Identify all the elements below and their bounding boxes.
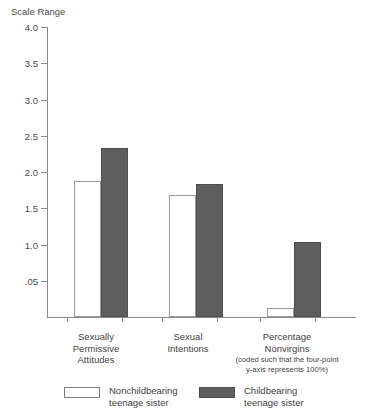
group-label-line3: Attitudes <box>78 354 115 365</box>
y-tick-mark <box>41 245 47 246</box>
x-axis-group-label-nonvirgins: Percentage Nonvirgins (coded such that t… <box>213 331 361 375</box>
legend-swatch-filled-rectangle-icon <box>199 387 235 398</box>
y-tick-label: 1.0 <box>4 239 38 250</box>
group-label-note-line1: (coded such that the four-point <box>213 355 361 364</box>
x-tick-mark <box>67 317 68 322</box>
y-tick-label: .05 <box>4 275 38 286</box>
legend-label-line1: Nonchildbearing <box>109 385 178 396</box>
bar-childbearing-attitudes <box>101 148 128 317</box>
x-axis-line <box>47 317 356 318</box>
legend-label-line1: Childbearing <box>244 385 297 396</box>
y-tick-mark <box>41 172 47 173</box>
y-axis-title: Scale Range <box>11 6 65 17</box>
x-tick-mark <box>162 317 163 322</box>
x-tick-mark <box>217 317 218 322</box>
group-label-line2: Permissive <box>73 343 119 354</box>
bar-nonchildbearing-intentions <box>169 195 196 317</box>
y-tick-mark <box>41 100 47 101</box>
legend-label-line2: teenage sister <box>109 397 169 408</box>
legend-swatch-open-rectangle-icon <box>64 387 100 398</box>
y-tick-mark <box>41 136 47 137</box>
y-tick-mark <box>41 208 47 209</box>
y-tick-mark <box>41 27 47 28</box>
group-label-line1: Percentage <box>263 331 312 342</box>
bar-nonchildbearing-attitudes <box>74 181 101 317</box>
y-tick-label: 3.5 <box>4 58 38 69</box>
y-axis-line <box>47 27 48 318</box>
bar-nonchildbearing-nonvirgins <box>267 308 294 317</box>
bar-childbearing-nonvirgins <box>294 242 321 317</box>
x-axis-group-label-attitudes: Sexually Permissive Attitudes <box>48 331 144 366</box>
plot-area: 4.0 3.5 3.0 2.5 2.0 1.5 1.0 .05 <box>47 27 356 318</box>
group-label-line2: Nonvirgins <box>265 343 310 354</box>
y-tick-mark <box>41 63 47 64</box>
y-tick-mark <box>41 281 47 282</box>
x-tick-mark <box>260 317 261 322</box>
y-tick-label: 2.5 <box>4 130 38 141</box>
group-label-line1: Sexually <box>78 331 114 342</box>
x-tick-mark <box>315 317 316 322</box>
y-tick-label: 2.0 <box>4 167 38 178</box>
group-label-line2: Intentions <box>167 343 208 354</box>
y-tick-label: 4.0 <box>4 22 38 33</box>
bar-childbearing-intentions <box>196 184 223 317</box>
legend: Nonchildbearing teenage sister Childbear… <box>0 383 366 417</box>
group-label-line1: Sexual <box>173 331 202 342</box>
legend-label-line2: teenage sister <box>244 397 304 408</box>
bar-chart: Scale Range 4.0 3.5 3.0 2.5 2.0 1.5 <box>0 0 366 417</box>
x-tick-mark <box>122 317 123 322</box>
y-tick-label: 3.0 <box>4 94 38 105</box>
y-tick-label: 1.5 <box>4 203 38 214</box>
group-label-note-line2: y-axis represents 100%) <box>213 365 361 374</box>
